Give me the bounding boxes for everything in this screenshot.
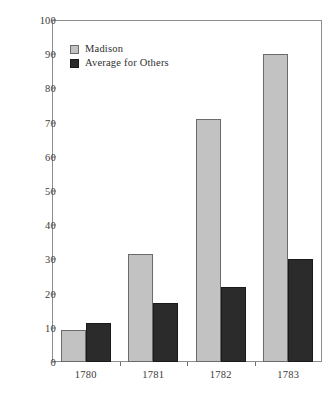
legend-item-label: Average for Others <box>85 56 169 70</box>
bar-1781-madison <box>128 254 153 362</box>
dark-swatch-icon <box>70 59 79 68</box>
x-axis-tick-label: 1782 <box>210 369 232 380</box>
bar-1780-madison <box>61 330 86 362</box>
x-axis-tick-mark <box>120 362 121 366</box>
bar-chart-figure: 0102030405060708090100 1780178117821783 … <box>0 0 335 401</box>
bar-1783-others <box>288 259 313 362</box>
bar-1780-others <box>86 323 111 362</box>
x-axis-tick-label: 1780 <box>75 369 97 380</box>
bars-layer <box>52 20 322 362</box>
light-gray-swatch-icon <box>70 45 79 54</box>
legend-item: Average for Others <box>70 56 169 70</box>
bar-1783-madison <box>263 54 288 362</box>
bar-1782-others <box>221 287 246 362</box>
bar-1781-others <box>153 303 178 362</box>
x-axis-tick-label: 1781 <box>142 369 164 380</box>
bar-1782-madison <box>196 119 221 362</box>
chart-legend: Madison Average for Others <box>70 42 169 70</box>
x-axis-tick-mark <box>255 362 256 366</box>
x-axis-tick-mark <box>187 362 188 366</box>
legend-item: Madison <box>70 42 169 56</box>
x-axis-tick-label: 1783 <box>277 369 299 380</box>
legend-item-label: Madison <box>85 42 123 56</box>
figure-caption <box>0 392 335 401</box>
